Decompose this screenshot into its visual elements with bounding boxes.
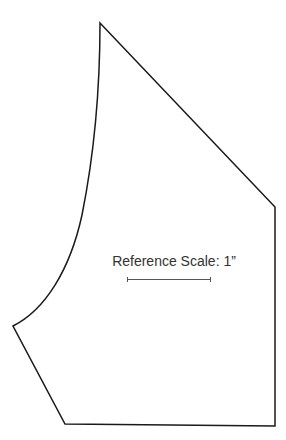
scale-label: Reference Scale: 1”: [112, 253, 236, 269]
scale-bar: [127, 277, 211, 282]
pattern-canvas: Reference Scale: 1”: [0, 0, 286, 440]
pattern-piece-outline: [13, 23, 275, 426]
